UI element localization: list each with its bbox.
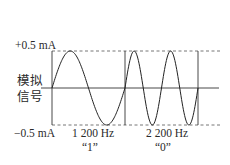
bit-label-1: “1” — [82, 142, 98, 154]
frequency-label-1200: 1 200 Hz — [72, 128, 114, 140]
fsk-waveform-diagram: +0.5 mA 模拟 信号 −0.5 mA 1 200 Hz “1” 2 200… — [0, 0, 230, 165]
bit-label-0: “0” — [155, 142, 171, 154]
bottom-current-label: −0.5 mA — [14, 128, 55, 140]
frequency-label-2200: 2 200 Hz — [146, 128, 188, 140]
top-current-label: +0.5 mA — [15, 40, 56, 52]
signal-label-line1: 模拟 — [17, 75, 43, 88]
signal-label-line2: 信号 — [17, 91, 43, 104]
